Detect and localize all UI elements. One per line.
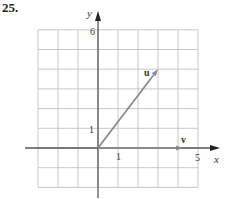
vector-u	[98, 75, 154, 148]
vectors	[98, 69, 183, 150]
x-axis-arrow-icon	[210, 145, 220, 151]
vector-v-arrowhead-icon	[176, 145, 183, 150]
labels: x y 1 5 1 6 u v	[86, 7, 219, 165]
vector-plot: x y 1 5 1 6 u v	[0, 0, 226, 199]
vector-v-label: v	[181, 134, 186, 145]
y-tick-label-6: 6	[90, 26, 95, 37]
x-tick-label-5: 5	[195, 152, 200, 163]
axes	[25, 11, 220, 198]
x-axis-label: x	[213, 153, 219, 165]
vector-u-label: u	[144, 67, 150, 78]
y-axis-label: y	[86, 7, 92, 19]
x-tick-label-1: 1	[116, 151, 121, 162]
y-axis-arrow-icon	[95, 11, 101, 21]
y-tick-label-1: 1	[89, 124, 94, 135]
grid	[38, 30, 198, 188]
